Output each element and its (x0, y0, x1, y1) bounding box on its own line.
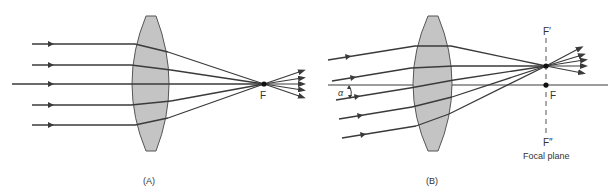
diverging-rays-a (264, 71, 302, 97)
focal-plane-label: Focal plane (523, 151, 570, 161)
focal-label-a: F (260, 90, 266, 101)
focal-label-b: F (550, 90, 556, 101)
panel-b: α F′ F F″ Focal plane (B) (328, 16, 608, 186)
caption-a: (A) (143, 176, 155, 186)
f-prime-label: F′ (543, 26, 551, 37)
focal-point-b (543, 82, 548, 87)
lens-diagram: F (A) (0, 0, 615, 194)
image-point-f-prime (543, 63, 548, 68)
diverging-rays-b (546, 48, 584, 73)
f-double-prime-label: F″ (543, 137, 553, 148)
caption-b: (B) (426, 176, 438, 186)
panel-a: F (A) (12, 16, 302, 186)
angle-alpha-label: α (338, 88, 344, 98)
angle-arrow-up (347, 85, 351, 89)
focal-point-a (261, 81, 266, 86)
